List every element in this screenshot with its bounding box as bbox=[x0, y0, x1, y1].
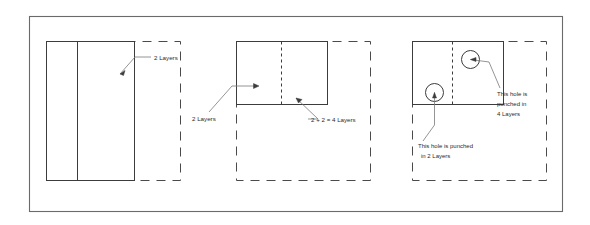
panel-1-sheet bbox=[47, 42, 135, 181]
panel-3-label-four-line1: This hole is bbox=[497, 91, 527, 97]
panel-3-label-two-line2: in 2 Layers bbox=[421, 153, 450, 159]
panel-2-label-sum: 2 + 2 = 4 Layers bbox=[311, 116, 356, 123]
panel-3-label-two-line1: This hole is punched bbox=[418, 143, 473, 149]
layer-diagram: 2 Layers 2 Layers 2 + 2 = 4 Layers bbox=[0, 0, 590, 225]
panel-1-label-2-layers: 2 Layers bbox=[154, 54, 178, 61]
diagram-canvas: 2 Layers 2 Layers 2 + 2 = 4 Layers bbox=[0, 0, 590, 225]
panel-3-label-four-line2: punched in bbox=[497, 101, 526, 107]
panel-2: 2 Layers 2 + 2 = 4 Layers bbox=[192, 42, 371, 181]
panel-3-label-four-line3: 4 Layers bbox=[497, 111, 520, 117]
panel-1: 2 Layers bbox=[47, 42, 181, 181]
panel-2-label-2-layers: 2 Layers bbox=[192, 115, 216, 122]
panel-3: This hole is punched in 4 Layers This ho… bbox=[413, 42, 547, 181]
